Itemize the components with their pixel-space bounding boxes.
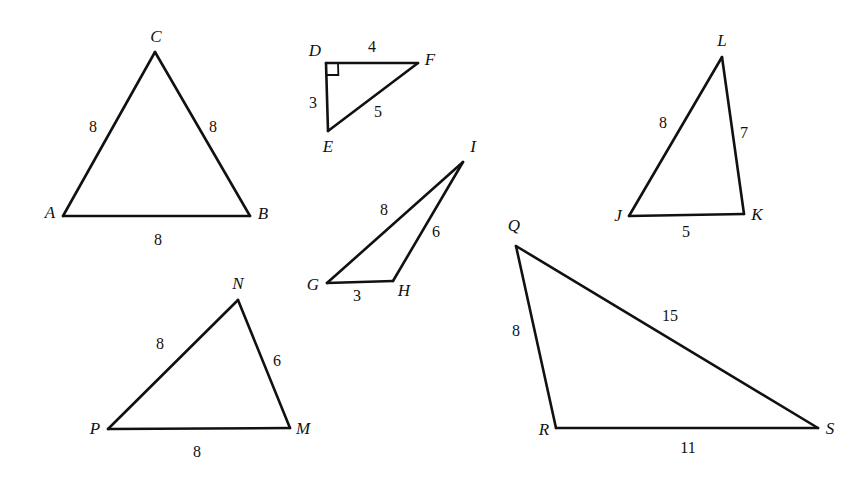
triangle-abc-edge-CB bbox=[155, 52, 250, 216]
triangle-def-edge-EF bbox=[328, 63, 418, 131]
triangle-ghi-side-label-GH: 3 bbox=[353, 287, 361, 304]
triangle-mnp-vertex-label-M: M bbox=[295, 419, 311, 438]
triangle-qrs-vertex-label-R: R bbox=[538, 420, 550, 439]
triangle-ghi-side-label-GI: 8 bbox=[380, 201, 388, 218]
triangle-jkl-vertex-label-J: J bbox=[614, 206, 623, 225]
triangle-jkl-edge-JK bbox=[629, 214, 744, 216]
triangle-qrs-edge-QR bbox=[516, 246, 556, 428]
triangle-ghi-edge-IH bbox=[393, 162, 463, 281]
triangle-qrs-vertex-label-Q: Q bbox=[508, 216, 520, 235]
triangle-abc-side-label-AB: 8 bbox=[154, 231, 162, 248]
triangle-abc: 888ABC bbox=[44, 27, 269, 248]
triangle-def-edge-DE bbox=[326, 63, 328, 131]
triangle-def-vertex-label-E: E bbox=[322, 137, 334, 156]
triangle-def-vertex-label-F: F bbox=[424, 50, 436, 69]
triangle-abc-side-label-AC: 8 bbox=[89, 118, 97, 135]
triangle-mnp-edge-PN bbox=[108, 300, 238, 429]
triangle-abc-vertex-label-B: B bbox=[258, 204, 269, 223]
triangle-jkl-side-label-JL: 8 bbox=[659, 114, 667, 131]
triangle-mnp-vertex-label-N: N bbox=[231, 274, 245, 293]
triangle-mnp-side-label-NM: 6 bbox=[273, 352, 281, 369]
triangle-qrs-side-label-QR: 8 bbox=[512, 322, 520, 339]
triangle-qrs-side-label-RS: 11 bbox=[680, 439, 695, 456]
triangle-qrs: 81511QRS bbox=[508, 216, 835, 456]
triangle-ghi-side-label-IH: 6 bbox=[432, 223, 440, 240]
triangle-mnp: 868PMN bbox=[89, 274, 311, 460]
triangle-mnp-side-label-PM: 8 bbox=[193, 443, 201, 460]
triangle-jkl-side-label-JK: 5 bbox=[682, 223, 690, 240]
triangle-qrs-side-label-QS: 15 bbox=[662, 307, 678, 324]
triangle-ghi: 863GHI bbox=[307, 137, 477, 304]
triangle-abc-edge-AC bbox=[63, 52, 155, 216]
triangle-mnp-edge-PM bbox=[108, 428, 290, 429]
triangle-mnp-vertex-label-P: P bbox=[89, 419, 100, 438]
triangle-mnp-side-label-PN: 8 bbox=[156, 335, 164, 352]
triangle-jkl-edge-JL bbox=[629, 57, 722, 216]
triangle-ghi-vertex-label-H: H bbox=[397, 281, 412, 300]
triangle-def: 435DEF bbox=[308, 38, 436, 156]
triangle-def-side-label-DF: 4 bbox=[368, 38, 376, 55]
triangle-mnp-edge-NM bbox=[238, 300, 290, 428]
triangle-qrs-edge-QS bbox=[516, 246, 818, 428]
triangle-qrs-vertex-label-S: S bbox=[826, 419, 835, 438]
geometry-figure: 888ABC435DEF863GHI875JKL868PMN81511QRS bbox=[0, 0, 867, 482]
triangles-canvas: 888ABC435DEF863GHI875JKL868PMN81511QRS bbox=[0, 0, 867, 482]
triangle-def-side-label-EF: 5 bbox=[374, 103, 382, 120]
triangle-ghi-vertex-label-I: I bbox=[469, 137, 477, 156]
triangle-def-vertex-label-D: D bbox=[308, 41, 322, 60]
triangle-def-side-label-DE: 3 bbox=[309, 94, 317, 111]
triangle-abc-vertex-label-A: A bbox=[44, 203, 56, 222]
triangle-ghi-edge-GH bbox=[327, 281, 393, 283]
triangle-jkl: 875JKL bbox=[614, 31, 764, 240]
triangle-ghi-vertex-label-G: G bbox=[307, 275, 319, 294]
triangle-ghi-edge-GI bbox=[327, 162, 463, 283]
triangle-abc-side-label-CB: 8 bbox=[209, 118, 217, 135]
triangle-jkl-side-label-LK: 7 bbox=[740, 124, 748, 141]
triangle-abc-vertex-label-C: C bbox=[150, 27, 162, 46]
triangle-jkl-vertex-label-K: K bbox=[750, 205, 764, 224]
triangle-jkl-vertex-label-L: L bbox=[716, 31, 726, 50]
triangle-def-right-angle-mark bbox=[326, 63, 338, 75]
